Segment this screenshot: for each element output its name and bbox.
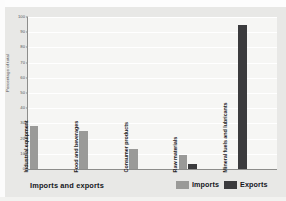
- bar-exports-4: [238, 25, 247, 169]
- bar-imports-0: [30, 126, 39, 169]
- page-left-margin: [0, 0, 5, 201]
- y-axis-tick-label: 40: [20, 106, 28, 110]
- y-axis-title: Percentage of total: [5, 54, 10, 92]
- x-axis-category-label: Industrial equipment: [24, 120, 29, 172]
- y-axis-tick-label: 80: [20, 45, 28, 49]
- page-top-margin: [0, 0, 286, 7]
- bar-imports-1: [79, 131, 88, 169]
- x-axis-category-label: Mineral fuels and lubricants: [223, 103, 228, 173]
- legend-swatch: [224, 181, 237, 189]
- bar-exports-3: [188, 164, 197, 169]
- legend-label: Imports: [192, 180, 219, 189]
- bar-imports-3: [179, 155, 188, 169]
- y-axis-tick-label: 90: [20, 30, 28, 34]
- x-axis-title: Imports and exports: [30, 181, 104, 190]
- y-axis-tick-label: 100: [18, 15, 28, 19]
- legend-item: Imports: [176, 180, 219, 189]
- chart-screenshot: Percentage of total 01020304050607080901…: [0, 0, 286, 201]
- x-axis-category-label: Raw materials: [173, 137, 178, 173]
- chart-legend: ImportsExports: [176, 180, 268, 189]
- bar-imports-2: [129, 149, 138, 169]
- y-axis-tick-label: 70: [20, 60, 28, 64]
- plot-area: 0102030405060708090100Industrial equipme…: [27, 17, 277, 170]
- y-axis-tick-label: 60: [20, 76, 28, 80]
- x-axis-category-label: Consumer products: [123, 122, 128, 172]
- x-axis-category-label: Food and beverages: [73, 121, 78, 173]
- legend-label: Exports: [240, 180, 267, 189]
- page-bottom-margin: [0, 197, 286, 201]
- legend-swatch: [176, 181, 189, 189]
- y-axis-tick-label: 50: [20, 91, 28, 95]
- gridline: [28, 17, 277, 18]
- legend-item: Exports: [224, 180, 267, 189]
